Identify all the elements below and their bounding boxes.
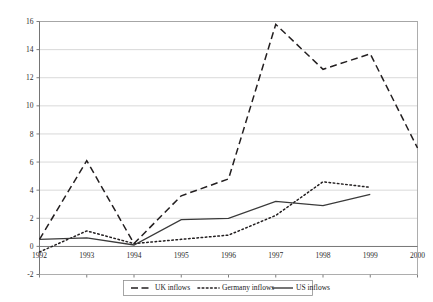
chart-legend: UK inflows Germany inflows US inflows bbox=[124, 281, 331, 296]
plot-area-frame bbox=[40, 22, 418, 275]
x-tick-label: 1993 bbox=[79, 251, 94, 260]
legend-label-germany: Germany inflows bbox=[222, 283, 274, 292]
y-tick-label: 14 bbox=[26, 45, 34, 54]
y-tick-label: -2 bbox=[27, 270, 33, 279]
x-tick-label: 1999 bbox=[363, 251, 378, 260]
legend-label-uk: UK inflows bbox=[155, 283, 190, 292]
x-tick-label: 1998 bbox=[316, 251, 331, 260]
x-tick-label: 1997 bbox=[268, 251, 283, 260]
y-tick-label: 2 bbox=[30, 214, 34, 223]
y-tick-label: 4 bbox=[30, 186, 34, 195]
y-tick-label: 12 bbox=[26, 73, 34, 82]
y-tick-label: 10 bbox=[26, 101, 34, 110]
line-chart-figure: -20246810121416 199219931994199519961997… bbox=[0, 0, 433, 302]
x-tick-label: 1994 bbox=[127, 251, 142, 260]
x-axis-tick-labels: 199219931994199519961997199819992000 bbox=[32, 251, 425, 260]
chart-canvas: -20246810121416 199219931994199519961997… bbox=[0, 0, 433, 302]
x-tick-label: 1995 bbox=[174, 251, 189, 260]
x-tick-label: 1996 bbox=[221, 251, 236, 260]
y-tick-label: 6 bbox=[30, 158, 34, 167]
legend-label-us: US inflows bbox=[296, 283, 330, 292]
y-tick-label: 8 bbox=[30, 130, 34, 139]
y-tick-label: 16 bbox=[26, 17, 34, 26]
y-axis-tick-labels: -20246810121416 bbox=[26, 17, 34, 279]
series-line-germany-inflows bbox=[40, 182, 371, 252]
